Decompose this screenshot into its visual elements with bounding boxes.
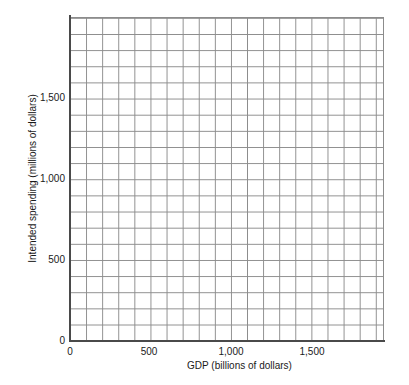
plot-area-grid (70, 17, 384, 340)
chart-figure: 0 500 1,000 1,500 0 500 1,000 1,500 GDP … (0, 0, 409, 385)
x-axis-line (69, 340, 385, 342)
y-tick-label-0: 0 (59, 335, 65, 346)
x-tick-label-0: 0 (67, 346, 73, 357)
y-axis-title: Intended spending (millions of dollars) (26, 17, 40, 340)
x-tick-label-500: 500 (141, 346, 158, 357)
y-tick-label-500: 500 (48, 254, 65, 265)
y-axis-line (69, 15, 71, 342)
y-tick-label-1000: 1,000 (40, 173, 65, 184)
x-tick-label-1000: 1,000 (218, 346, 243, 357)
y-tick-label-1500: 1,500 (40, 92, 65, 103)
x-tick-label-1500: 1,500 (299, 346, 324, 357)
x-axis-title: GDP (billions of dollars) (0, 360, 409, 371)
